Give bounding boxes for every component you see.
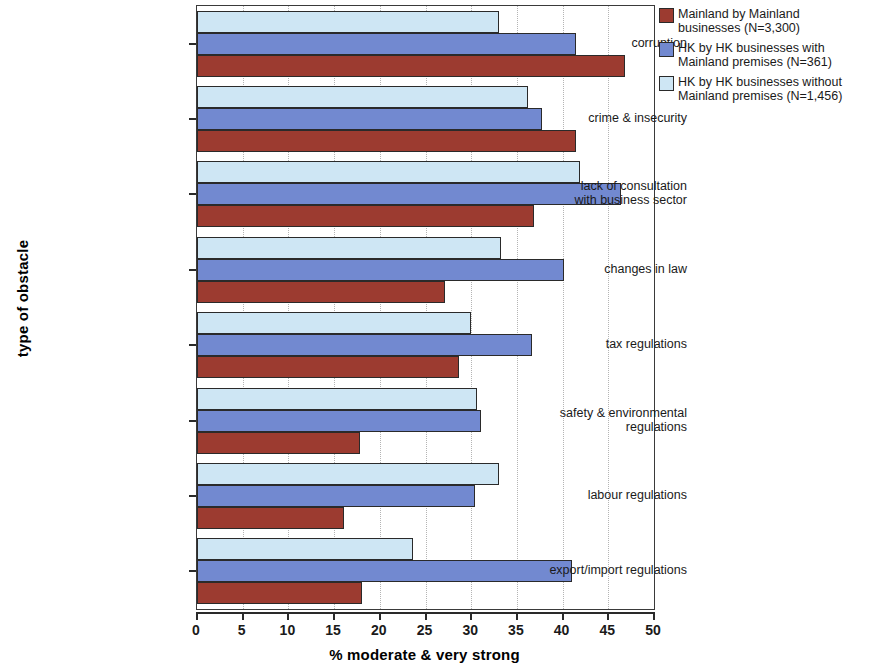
category-label: lack of consultation with business secto… bbox=[574, 179, 687, 207]
x-axis-tick bbox=[425, 612, 427, 620]
legend-item: HK by HK businesses with Mainland premis… bbox=[659, 41, 871, 69]
plot-area bbox=[196, 5, 655, 610]
x-axis-tick-label: 30 bbox=[450, 622, 490, 638]
legend-swatch-icon bbox=[659, 76, 674, 91]
x-axis-tick-label: 35 bbox=[496, 622, 536, 638]
legend: Mainland by Mainland businesses (N=3,300… bbox=[659, 7, 871, 109]
bar bbox=[197, 356, 459, 378]
x-axis-tick bbox=[562, 612, 564, 620]
bar bbox=[197, 55, 625, 77]
legend-swatch-icon bbox=[659, 42, 674, 57]
x-axis-tick-label: 10 bbox=[267, 622, 307, 638]
bar bbox=[197, 205, 534, 227]
bar bbox=[197, 410, 481, 432]
bar bbox=[197, 388, 477, 410]
legend-label: HK by HK businesses with Mainland premis… bbox=[678, 41, 832, 69]
bar bbox=[197, 485, 475, 507]
x-axis-tick bbox=[196, 612, 198, 620]
category-label: changes in law bbox=[604, 262, 687, 276]
bar bbox=[197, 33, 576, 55]
category-label: labour regulations bbox=[588, 488, 687, 502]
x-axis-tick bbox=[379, 612, 381, 620]
x-axis-tick bbox=[607, 612, 609, 620]
bar bbox=[197, 237, 501, 259]
x-axis-tick bbox=[470, 612, 472, 620]
x-axis-tick-label: 20 bbox=[359, 622, 399, 638]
bar bbox=[197, 560, 572, 582]
bar bbox=[197, 432, 360, 454]
x-axis-tick-label: 0 bbox=[176, 622, 216, 638]
category-tick bbox=[189, 43, 196, 45]
bar bbox=[197, 130, 576, 152]
category-tick bbox=[189, 269, 196, 271]
category-label: safety & environmental regulations bbox=[560, 406, 687, 434]
bar-group bbox=[197, 308, 654, 383]
category-tick bbox=[189, 193, 196, 195]
bar bbox=[197, 281, 445, 303]
bar bbox=[197, 86, 528, 108]
bar bbox=[197, 334, 532, 356]
category-tick bbox=[189, 495, 196, 497]
bar bbox=[197, 538, 413, 560]
x-axis-tick-label: 15 bbox=[313, 622, 353, 638]
bar bbox=[197, 582, 362, 604]
x-axis-tick-label: 50 bbox=[633, 622, 673, 638]
x-axis-tick bbox=[653, 612, 655, 620]
category-tick bbox=[189, 570, 196, 572]
category-tick bbox=[189, 344, 196, 346]
bar-group bbox=[197, 6, 654, 81]
bar bbox=[197, 312, 471, 334]
category-tick bbox=[189, 118, 196, 120]
bar-group bbox=[197, 458, 654, 533]
bar-group bbox=[197, 81, 654, 156]
x-axis-tick bbox=[516, 612, 518, 620]
x-axis-tick bbox=[242, 612, 244, 620]
legend-item: Mainland by Mainland businesses (N=3,300… bbox=[659, 7, 871, 35]
bar bbox=[197, 463, 499, 485]
category-label: export/import regulations bbox=[549, 563, 687, 577]
bar bbox=[197, 183, 621, 205]
x-axis-tick-label: 45 bbox=[587, 622, 627, 638]
bar bbox=[197, 161, 580, 183]
x-axis-tick bbox=[333, 612, 335, 620]
horizontal-bar-chart: type of obstacle corruptioncrime & insec… bbox=[0, 0, 873, 670]
x-axis-tick bbox=[287, 612, 289, 620]
x-axis-tick-label: 40 bbox=[542, 622, 582, 638]
bar bbox=[197, 11, 499, 33]
x-axis-tick-label: 5 bbox=[222, 622, 262, 638]
legend-item: HK by HK businesses without Mainland pre… bbox=[659, 75, 871, 103]
y-axis-title: type of obstacle bbox=[14, 199, 31, 399]
category-label: tax regulations bbox=[606, 337, 687, 351]
bar bbox=[197, 259, 564, 281]
bar-group bbox=[197, 232, 654, 307]
legend-label: Mainland by Mainland businesses (N=3,300… bbox=[678, 7, 800, 35]
x-axis-tick-label: 25 bbox=[405, 622, 445, 638]
category-label: crime & insecurity bbox=[588, 111, 687, 125]
legend-label: HK by HK businesses without Mainland pre… bbox=[678, 75, 842, 103]
bar bbox=[197, 108, 542, 130]
bar bbox=[197, 507, 344, 529]
category-tick bbox=[189, 420, 196, 422]
legend-swatch-icon bbox=[659, 8, 674, 23]
x-axis-title: % moderate & very strong bbox=[196, 646, 653, 663]
